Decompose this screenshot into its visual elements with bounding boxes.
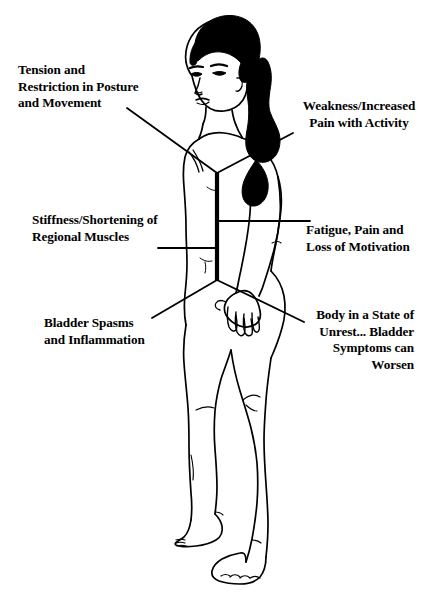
leader-line-tension: [127, 108, 217, 173]
label-tension-restriction: Tension and Restriction in Posture and M…: [18, 62, 208, 112]
label-bladder-spasms: Bladder Spasms and Inflammation: [44, 315, 212, 348]
feet-outline: [175, 514, 266, 584]
torso-and-limbs-outline: [183, 138, 285, 562]
diagram-canvas: Tension and Restriction in Posture and M…: [0, 0, 440, 600]
label-body-state-of-unrest: Body in a State of Unrest... Bladder Sym…: [300, 307, 414, 373]
label-stiffness-shortening: Stiffness/Shortening of Regional Muscles: [32, 212, 218, 245]
label-fatigue-pain-motivation: Fatigue, Pain and Loss of Motivation: [306, 222, 436, 255]
label-weakness-increased-pain: Weakness/Increased Pain with Activity: [283, 98, 435, 131]
